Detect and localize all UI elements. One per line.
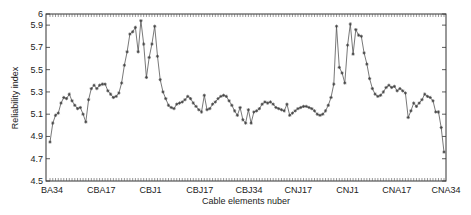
data-point-marker — [170, 106, 173, 109]
data-point-marker — [219, 95, 222, 98]
data-point-marker — [214, 100, 217, 103]
y-axis: 4.54.74.95.15.35.55.75.96 — [30, 9, 446, 186]
data-point-marker — [117, 91, 120, 94]
data-point-marker — [79, 106, 82, 109]
data-point-marker — [371, 87, 374, 90]
data-point-marker — [329, 96, 332, 99]
data-point-marker — [252, 110, 255, 113]
data-point-marker — [192, 101, 195, 104]
data-point-marker — [354, 28, 357, 31]
data-point-marker — [131, 30, 134, 33]
data-point-marker — [313, 109, 316, 112]
data-point-marker — [90, 87, 93, 90]
data-point-marker — [65, 97, 68, 100]
data-point-marker — [340, 71, 343, 74]
data-point-marker — [327, 104, 330, 107]
data-point-marker — [175, 103, 178, 106]
y-axis-title: Reliability index — [10, 66, 20, 129]
data-point-marker — [263, 100, 266, 103]
series-line — [50, 21, 444, 152]
data-point-marker — [351, 52, 354, 55]
data-point-marker — [429, 96, 432, 99]
data-point-marker — [227, 99, 230, 102]
data-point-marker — [440, 126, 443, 129]
data-point-marker — [205, 108, 208, 111]
data-point-marker — [98, 84, 101, 87]
data-point-marker — [255, 109, 258, 112]
data-point-marker — [145, 76, 148, 79]
data-point-marker — [324, 109, 327, 112]
data-point-marker — [95, 87, 98, 90]
data-point-marker — [203, 94, 206, 97]
plot-frame — [46, 14, 446, 181]
y-tick-label: 5.5 — [30, 65, 43, 75]
data-point-marker — [230, 104, 233, 107]
data-point-marker — [299, 106, 302, 109]
data-point-marker — [142, 42, 145, 45]
data-point-marker — [376, 95, 379, 98]
data-series — [48, 19, 445, 154]
data-point-marker — [112, 96, 115, 99]
data-point-marker — [360, 35, 363, 38]
data-point-marker — [261, 103, 264, 106]
data-point-marker — [343, 81, 346, 84]
data-point-marker — [404, 91, 407, 94]
data-point-marker — [346, 44, 349, 47]
data-point-marker — [418, 101, 421, 104]
data-point-marker — [393, 85, 396, 88]
data-point-marker — [362, 51, 365, 54]
data-point-marker — [310, 107, 313, 110]
data-point-marker — [338, 66, 341, 69]
data-point-marker — [181, 100, 184, 103]
data-point-marker — [208, 107, 211, 110]
data-point-marker — [106, 89, 109, 92]
data-point-marker — [434, 110, 437, 113]
x-tick-label: CNA34 — [431, 185, 460, 195]
x-tick-label: CNJ17 — [284, 185, 312, 195]
data-point-marker — [294, 109, 297, 112]
data-point-marker — [409, 109, 412, 112]
data-point-marker — [200, 110, 203, 113]
data-point-marker — [407, 116, 410, 119]
data-point-marker — [126, 50, 129, 53]
data-point-marker — [244, 122, 247, 125]
data-point-marker — [390, 86, 393, 89]
data-point-marker — [396, 89, 399, 92]
x-tick-label: CBJ34 — [235, 185, 262, 195]
data-point-marker — [374, 93, 377, 96]
x-tick-label: CBA17 — [87, 185, 116, 195]
data-point-marker — [266, 101, 269, 104]
y-tick-label: 4.9 — [30, 131, 43, 141]
x-tick-label: CBJ1 — [139, 185, 161, 195]
data-point-marker — [239, 106, 242, 109]
data-point-marker — [332, 83, 335, 86]
data-point-marker — [365, 63, 368, 66]
data-point-marker — [164, 97, 167, 100]
data-point-marker — [68, 93, 71, 96]
data-point-marker — [431, 99, 434, 102]
data-point-marker — [48, 140, 51, 143]
data-point-marker — [335, 25, 338, 28]
data-point-marker — [104, 83, 107, 86]
data-point-marker — [84, 120, 87, 123]
data-point-marker — [81, 113, 84, 116]
data-point-marker — [70, 99, 73, 102]
data-point-marker — [415, 105, 418, 108]
data-point-marker — [233, 109, 236, 112]
data-point-marker — [62, 96, 65, 99]
data-point-marker — [123, 64, 126, 67]
data-point-marker — [148, 56, 151, 59]
data-point-marker — [250, 122, 253, 125]
data-point-marker — [134, 26, 137, 29]
data-point-marker — [277, 107, 280, 110]
x-tick-label: CNA17 — [382, 185, 411, 195]
data-point-marker — [382, 90, 385, 93]
x-tick-label: CBJ17 — [186, 185, 213, 195]
data-point-marker — [321, 113, 324, 116]
x-axis: BA34CBA17CBJ1CBJ17CBJ34CNJ17CNJ1CNA17CNA… — [41, 185, 461, 195]
data-point-marker — [423, 93, 426, 96]
data-point-marker — [247, 108, 250, 111]
data-point-marker — [318, 114, 321, 117]
x-tick-label: CNJ1 — [336, 185, 359, 195]
data-point-marker — [87, 98, 90, 101]
